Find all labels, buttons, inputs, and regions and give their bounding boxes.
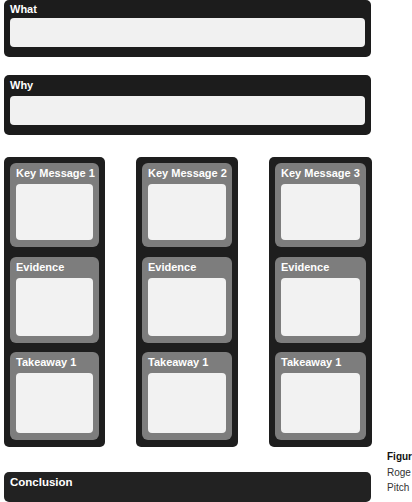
takeaway-content-box[interactable] <box>16 373 93 433</box>
conclusion-label: Conclusion <box>10 476 73 488</box>
why-content-box[interactable] <box>10 96 365 125</box>
conclusion-panel: Conclusion <box>4 472 371 502</box>
key-message-section: Key Message 2 <box>142 163 232 247</box>
section-label: Takeaway 1 <box>281 356 341 368</box>
section-label: Key Message 3 <box>281 167 360 179</box>
key-message-column-2: Key Message 2 Evidence Takeaway 1 <box>136 157 238 447</box>
section-label: Evidence <box>16 261 64 273</box>
section-label: Key Message 1 <box>16 167 95 179</box>
takeaway-content-box[interactable] <box>281 373 360 433</box>
evidence-content-box[interactable] <box>281 278 360 336</box>
evidence-section: Evidence <box>142 257 232 343</box>
key-message-section: Key Message 1 <box>10 163 99 247</box>
evidence-content-box[interactable] <box>148 278 226 336</box>
takeaway-content-box[interactable] <box>148 373 226 433</box>
takeaway-section: Takeaway 1 <box>275 352 366 440</box>
key-message-content-box[interactable] <box>16 184 93 240</box>
what-panel: What <box>4 0 371 57</box>
why-panel: Why <box>4 75 371 135</box>
evidence-content-box[interactable] <box>16 278 93 336</box>
figure-caption-line: Roge <box>387 467 411 478</box>
evidence-section: Evidence <box>10 257 99 343</box>
section-label: Evidence <box>148 261 196 273</box>
what-content-box[interactable] <box>10 18 365 47</box>
section-label: Key Message 2 <box>148 167 227 179</box>
key-message-column-3: Key Message 3 Evidence Takeaway 1 <box>269 157 372 447</box>
takeaway-section: Takeaway 1 <box>142 352 232 440</box>
key-message-section: Key Message 3 <box>275 163 366 247</box>
key-message-content-box[interactable] <box>148 184 226 240</box>
key-message-content-box[interactable] <box>281 184 360 240</box>
key-message-column-1: Key Message 1 Evidence Takeaway 1 <box>4 157 105 447</box>
figure-caption-line: Pitch <box>387 482 409 493</box>
evidence-section: Evidence <box>275 257 366 343</box>
section-label: Takeaway 1 <box>148 356 208 368</box>
figure-caption-title: Figur <box>387 451 412 462</box>
takeaway-section: Takeaway 1 <box>10 352 99 440</box>
why-label: Why <box>10 79 33 91</box>
section-label: Evidence <box>281 261 329 273</box>
section-label: Takeaway 1 <box>16 356 76 368</box>
what-label: What <box>10 3 37 15</box>
